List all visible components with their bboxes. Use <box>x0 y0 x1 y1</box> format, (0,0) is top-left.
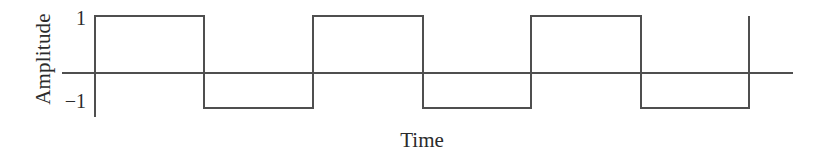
y-tick-label-positive-one: 1 <box>60 8 86 28</box>
x-axis-title: Time <box>372 130 472 151</box>
y-tick-label-negative-one: −1 <box>52 91 86 111</box>
square-wave-figure: Amplitude Time 1 −1 <box>0 0 823 159</box>
square-wave-trace <box>95 16 749 108</box>
